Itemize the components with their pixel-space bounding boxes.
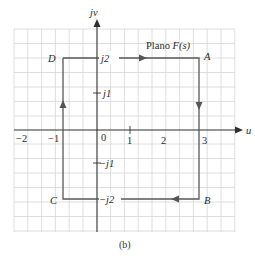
point-label-c: C bbox=[50, 195, 58, 206]
point-label-a: A bbox=[203, 51, 211, 62]
contour-plot: jv u −2 −1 0 1 2 3 j2 j1 −j1 −j2 D A B C… bbox=[0, 0, 255, 261]
x-tick-label: 1 bbox=[127, 135, 132, 146]
y-tick-label: j2 bbox=[99, 53, 110, 64]
x-tick-label: 2 bbox=[161, 135, 166, 146]
u-axis-arrow-icon bbox=[235, 127, 243, 134]
x-tick-label: −2 bbox=[16, 133, 27, 144]
arrow-down-icon bbox=[196, 102, 203, 110]
horizontal-axis-label: u bbox=[246, 125, 251, 136]
x-tick-label: 3 bbox=[202, 135, 207, 146]
arrow-right-icon bbox=[139, 55, 147, 62]
y-tick-label: −j2 bbox=[99, 194, 115, 205]
vertical-axis-label: jv bbox=[88, 7, 98, 18]
arrow-left-icon bbox=[171, 196, 179, 203]
plane-label: Plano F(s) bbox=[146, 40, 191, 52]
point-label-d: D bbox=[47, 53, 56, 64]
figure-caption: (b) bbox=[119, 239, 131, 251]
x-tick-label: 0 bbox=[101, 132, 106, 143]
point-label-b: B bbox=[204, 195, 211, 206]
y-tick-label: j1 bbox=[101, 88, 111, 99]
y-tick-label: −j1 bbox=[99, 158, 114, 169]
x-tick-label: −1 bbox=[48, 133, 59, 144]
jv-axis-arrow-icon bbox=[94, 19, 101, 27]
